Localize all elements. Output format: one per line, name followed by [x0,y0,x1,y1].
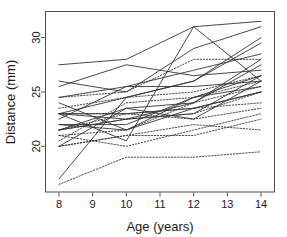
x-tick-label: 13 [221,198,233,210]
x-tick-label: 11 [154,198,165,210]
y-axis-title: Distance (mm) [3,60,18,145]
y-tick-label: 30 [31,31,43,43]
chart-canvas: 891011121314 202530 Age (years) Distance… [0,0,287,237]
chart-background [0,0,287,237]
x-tick-label: 12 [188,198,200,210]
orthodont-growth-chart: 891011121314 202530 Age (years) Distance… [0,0,287,237]
y-tick-label: 20 [31,140,43,152]
x-axis-title: Age (years) [126,219,193,234]
y-tick-label: 25 [31,86,43,98]
x-tick-label: 14 [255,198,267,210]
x-tick-label: 10 [120,198,132,210]
x-tick-label: 9 [90,198,96,210]
x-tick-label: 8 [56,198,62,210]
